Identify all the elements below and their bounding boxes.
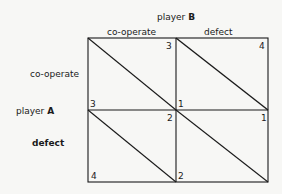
cell-cc-payoff-b: 3: [166, 42, 172, 51]
cell-cc-payoff-a: 3: [90, 100, 96, 109]
payoff-matrix-grid: [0, 0, 282, 194]
cell-dd-payoff-b: 1: [261, 114, 267, 123]
cell-cd-payoff-a: 1: [178, 100, 184, 109]
cell-dd-payoff-a: 2: [178, 172, 184, 181]
cell-dc-payoff-a: 4: [91, 172, 97, 181]
cell-dc-payoff-b: 2: [167, 114, 173, 123]
cell-cd-payoff-b: 4: [259, 42, 265, 51]
